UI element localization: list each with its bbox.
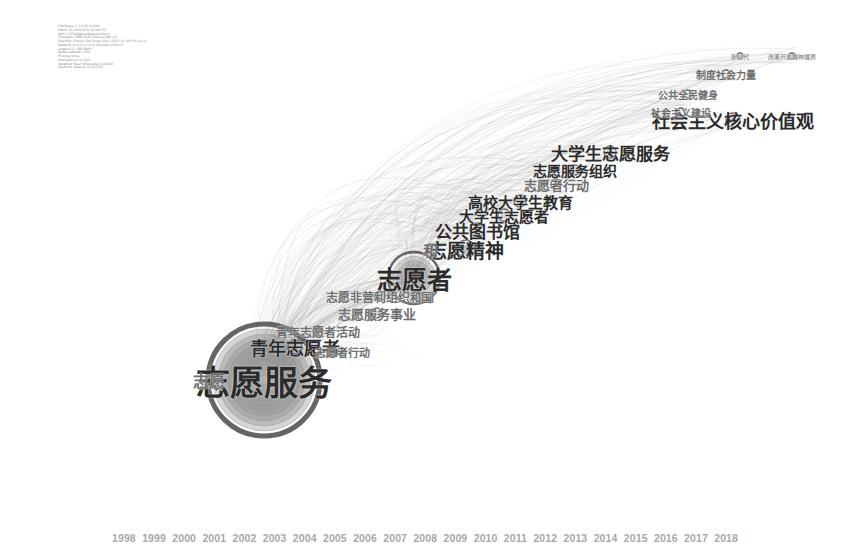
timeline-year: 2003 <box>263 532 287 544</box>
timeline-year: 2016 <box>654 532 678 544</box>
timeline-year: 2009 <box>444 532 468 544</box>
node-label[interactable]: 高校大学生教育 <box>468 191 573 212</box>
node-label[interactable]: 志愿者行动 <box>315 344 370 360</box>
node-label[interactable]: 社会主义建设 <box>651 105 711 120</box>
node-label[interactable]: 公共全民健身 <box>658 87 718 102</box>
year-timeline: 1998199920002001200220032004200520062007… <box>0 528 850 546</box>
timeline-year: 2015 <box>624 532 648 544</box>
timeline-year: 2014 <box>594 532 618 544</box>
timeline-year: 2004 <box>293 532 317 544</box>
timeline-year: 2011 <box>504 532 527 544</box>
timeline-year: 2007 <box>383 532 407 544</box>
node-label[interactable]: 改革开放精神境界 <box>768 52 816 61</box>
node-label[interactable]: 和国 <box>410 289 432 305</box>
timeline-year: 2013 <box>564 532 588 544</box>
node-label[interactable]: 新时代 <box>731 52 749 61</box>
timeline-year: 2018 <box>714 532 738 544</box>
timeline-year: 2017 <box>684 532 708 544</box>
node-label[interactable]: 大学生志愿服务 <box>551 140 670 165</box>
timeline-year: 2006 <box>353 532 377 544</box>
timeline-year: 2005 <box>323 532 347 544</box>
timeline-year: 1998 <box>112 532 136 544</box>
timeline-year: 2002 <box>233 532 257 544</box>
timeline-year: 2001 <box>202 532 226 544</box>
node-label[interactable]: 制度社会力量 <box>696 67 756 82</box>
node-label[interactable]: 志愿服务事业 <box>338 304 416 323</box>
node-label[interactable]: 和 <box>423 239 438 260</box>
citespace-canvas: CiteSpace, v. 5.5.R2 (64-bit)March 12, 2… <box>0 0 850 552</box>
timeline-year: 2010 <box>474 532 498 544</box>
timeline-year: 2012 <box>533 532 557 544</box>
timeline-year: 1999 <box>142 532 166 544</box>
timeline-year: 2000 <box>172 532 196 544</box>
node-label[interactable]: 志愿 <box>193 368 225 392</box>
timeline-year: 2008 <box>413 532 437 544</box>
